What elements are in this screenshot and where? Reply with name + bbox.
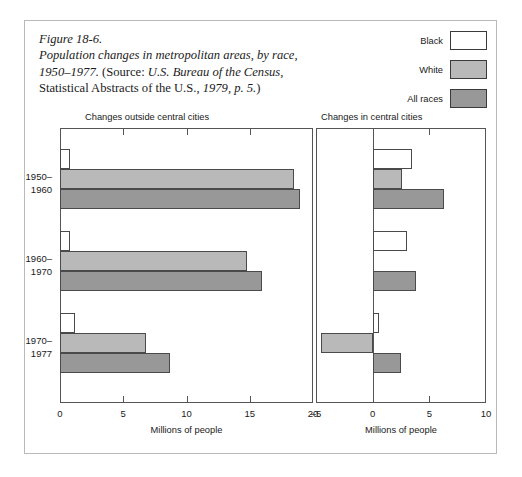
tick-label-5: 5 (417, 408, 441, 419)
bar-black-1950–1960 (60, 149, 70, 169)
figure-frame: Figure 18-6. Population changes in metro… (24, 20, 497, 454)
tick-label-10: 10 (474, 408, 497, 419)
group-label-1970–1977: 1970–1977 (24, 335, 52, 360)
bar-black-1960–1970 (373, 231, 407, 251)
group-label-1960–1970: 1960–1970 (24, 253, 52, 278)
tick-top-5 (429, 128, 430, 135)
bar-white-1970–1977 (321, 333, 373, 353)
caption-source-lead: (Source: (99, 65, 148, 79)
legend-label: Black (420, 36, 443, 46)
bar-all-races-1950–1960 (60, 189, 300, 209)
bar-black-1970–1977 (60, 313, 75, 333)
bar-white-1950–1960 (60, 169, 294, 189)
tick-label-15: 15 (238, 408, 262, 419)
caption-source-pub: Statistical Abstracts of the U.S., (39, 81, 203, 95)
tick-bottom-5 (429, 396, 430, 403)
tick-bottom-10 (187, 396, 188, 403)
bar-all-races-1960–1970 (60, 271, 262, 291)
bar-all-races-1950–1960 (373, 189, 444, 209)
tick-top-10 (187, 128, 188, 135)
group-label-start: 1950– (24, 171, 52, 184)
caption-line-2: Population changes in metropolitan areas… (39, 48, 298, 62)
x-axis-label-1: Millions of people (60, 425, 313, 435)
chart-legend: BlackWhiteAll races (391, 31, 487, 118)
caption-close-paren: ) (256, 81, 260, 95)
group-label-start: 1960– (24, 253, 52, 266)
tick-label--5: –5 (304, 408, 328, 419)
tick-label-10: 10 (175, 408, 199, 419)
x-axis-label-2: Millions of people (316, 425, 486, 435)
bar-white-1960–1970 (60, 251, 247, 271)
legend-label: All races (407, 94, 443, 104)
caption-source-name: U.S. Bureau of the Census, (148, 65, 284, 79)
tick-label-0: 0 (361, 408, 385, 419)
caption-years: 1950–1977. (39, 65, 99, 79)
legend-item-black: Black (391, 31, 487, 50)
bar-white-1970–1977 (60, 333, 146, 353)
tick-label-5: 5 (111, 408, 135, 419)
bar-all-races-1970–1977 (373, 353, 401, 373)
bar-all-races-1970–1977 (60, 353, 170, 373)
legend-item-white: White (391, 60, 487, 79)
legend-item-all-races: All races (391, 89, 487, 108)
bar-white-1950–1960 (373, 169, 402, 189)
legend-swatch (450, 60, 487, 79)
legend-swatch (450, 89, 487, 108)
tick-bottom-15 (250, 396, 251, 403)
tick-top-15 (250, 128, 251, 135)
group-label-end: 1970 (24, 266, 52, 279)
tick-label-0: 0 (48, 408, 72, 419)
bar-black-1950–1960 (373, 149, 413, 169)
group-label-end: 1960 (24, 184, 52, 197)
tick-bottom-5 (123, 396, 124, 403)
legend-label: White (419, 65, 443, 75)
group-label-end: 1977 (24, 348, 52, 361)
figure-caption: Figure 18-6. Population changes in metro… (39, 31, 349, 97)
group-label-start: 1970– (24, 335, 52, 348)
figure-number: Figure 18-6. (39, 32, 102, 46)
bar-all-races-1960–1970 (373, 271, 416, 291)
panel-title-1: Changes outside central cities (85, 112, 209, 122)
bar-black-1960–1970 (60, 231, 70, 251)
tick-top-5 (123, 128, 124, 135)
legend-swatch (450, 31, 487, 50)
bar-black-1970–1977 (373, 313, 380, 333)
caption-source-page: 1979, p. 5. (203, 81, 257, 95)
group-label-1950–1960: 1950–1960 (24, 171, 52, 196)
panel-title-2: Changes in central cities (321, 112, 422, 122)
